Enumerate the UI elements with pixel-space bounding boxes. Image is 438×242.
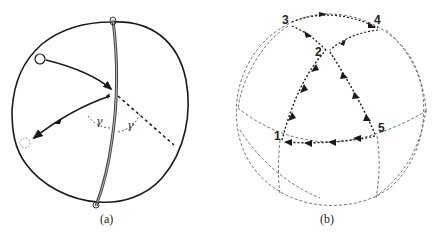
point-label-3: 3 bbox=[282, 13, 289, 27]
mirror-great-circle bbox=[96, 20, 117, 206]
path-2-to-5 bbox=[330, 52, 375, 134]
angle-label-right: γ bbox=[127, 119, 134, 132]
side-arc-left bbox=[238, 26, 288, 108]
sphere-outline-dashed bbox=[236, 14, 424, 205]
panel-b: 1 2 3 4 5 (b) bbox=[220, 0, 438, 242]
panel-a: γ γ (a) bbox=[0, 0, 220, 242]
point-label-4: 4 bbox=[374, 13, 381, 27]
meridian-right bbox=[376, 136, 379, 198]
incoming-ray bbox=[46, 60, 111, 89]
panel-b-diagram: 1 2 3 4 5 bbox=[220, 0, 438, 242]
source-circle bbox=[35, 54, 45, 64]
image-circle-dashed bbox=[20, 138, 30, 148]
caption-a: (a) bbox=[100, 212, 113, 227]
point-label-2: 2 bbox=[315, 45, 322, 59]
panel-a-diagram: γ γ bbox=[0, 0, 220, 242]
meridian-left bbox=[279, 140, 281, 194]
path-4-to-2 bbox=[330, 30, 378, 50]
equator-dashed bbox=[238, 108, 428, 142]
point-label-5: 5 bbox=[378, 121, 385, 135]
side-arc-right bbox=[386, 30, 426, 110]
sphere-outline bbox=[12, 22, 188, 202]
angle-label-left: γ bbox=[96, 115, 103, 128]
path-1-to-2 bbox=[282, 50, 326, 140]
point-label-1: 1 bbox=[274, 129, 281, 143]
caption-b: (b) bbox=[320, 212, 334, 227]
